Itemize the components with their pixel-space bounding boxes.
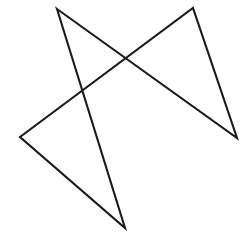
pentagram-drawing [0,0,242,232]
figure-canvas [0,0,242,232]
